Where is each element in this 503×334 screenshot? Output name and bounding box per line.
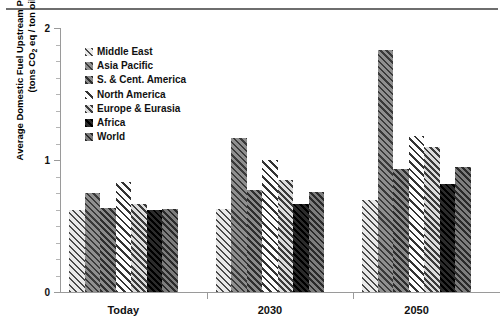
x-axis-group-separator: [353, 292, 354, 299]
x-axis-tick-label-2030: 2030: [258, 304, 282, 316]
legend-item-europe-eurasia: Europe & Eurasia: [85, 102, 245, 116]
bar-north-america-2030: [262, 160, 278, 292]
legend-label: North America: [97, 90, 166, 100]
bar-s-cent-america-2050: [393, 169, 409, 292]
legend-swatch-icon: [85, 105, 93, 113]
chart-figure: Average Domestic Fuel Upstream Processin…: [0, 0, 503, 334]
x-axis-tick-label-today: Today: [107, 304, 139, 316]
y-axis-tick-label: 1: [32, 155, 50, 166]
x-axis-group-separator: [207, 292, 208, 299]
bar-s-cent-america-today: [100, 208, 116, 292]
legend-swatch-icon: [85, 76, 93, 84]
legend-swatch-icon: [85, 62, 93, 70]
legend-label: S. & Cent. America: [97, 75, 186, 85]
bar-middle-east-2030: [216, 209, 232, 292]
bar-africa-today: [147, 210, 163, 292]
legend-label: Middle East: [97, 47, 153, 57]
legend-item-asia-pacific: Asia Pacific: [85, 59, 245, 73]
legend-label: Asia Pacific: [97, 61, 153, 71]
legend-swatch-icon: [85, 91, 93, 99]
legend-swatch-icon: [85, 133, 93, 141]
legend-item-middle-east: Middle East: [85, 45, 245, 59]
y-axis-tick-labels: 012: [32, 0, 50, 334]
bar-europe-eurasia-2030: [278, 180, 294, 292]
legend-item-world: World: [85, 130, 245, 144]
bar-africa-2050: [440, 184, 456, 292]
bar-north-america-2050: [409, 136, 425, 292]
bar-middle-east-2050: [362, 200, 378, 292]
legend-swatch-icon: [85, 48, 93, 56]
legend-item-africa: Africa: [85, 116, 245, 130]
faded-header-text: [90, 0, 410, 7]
x-axis-line: [60, 292, 500, 293]
bar-world-2050: [455, 167, 471, 292]
legend-label: Europe & Eurasia: [97, 104, 180, 114]
bar-asia-pacific-2050: [378, 50, 394, 292]
y-axis-tick-label: 2: [32, 23, 50, 34]
bar-asia-pacific-2030: [231, 138, 247, 292]
y-axis-tick-label: 0: [32, 287, 50, 298]
bar-world-today: [162, 209, 178, 292]
legend-swatch-icon: [85, 119, 93, 127]
chart-legend: Middle EastAsia PacificS. & Cent. Americ…: [85, 45, 245, 144]
bar-north-america-today: [116, 182, 132, 292]
x-axis-tick-labels: Today20302050: [60, 300, 500, 322]
bar-europe-eurasia-2050: [424, 147, 440, 292]
top-divider-rule: [6, 8, 498, 10]
bar-middle-east-today: [69, 210, 85, 292]
legend-label: Africa: [97, 118, 125, 128]
bar-asia-pacific-today: [85, 193, 101, 292]
legend-item-s-cent-america: S. & Cent. America: [85, 73, 245, 87]
x-axis-tick-label-2050: 2050: [404, 304, 428, 316]
y-axis-title-line1: Average Domestic Fuel Upstream Processin…: [14, 0, 26, 160]
legend-label: World: [97, 132, 125, 142]
bar-africa-2030: [293, 204, 309, 292]
bar-s-cent-america-2030: [247, 190, 263, 292]
bar-europe-eurasia-today: [131, 204, 147, 292]
bar-world-2030: [309, 192, 325, 292]
legend-item-north-america: North America: [85, 88, 245, 102]
